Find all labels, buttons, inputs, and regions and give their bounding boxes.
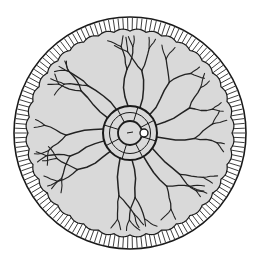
radial-diagram: [0, 0, 260, 267]
diagram-stage: [0, 0, 260, 267]
